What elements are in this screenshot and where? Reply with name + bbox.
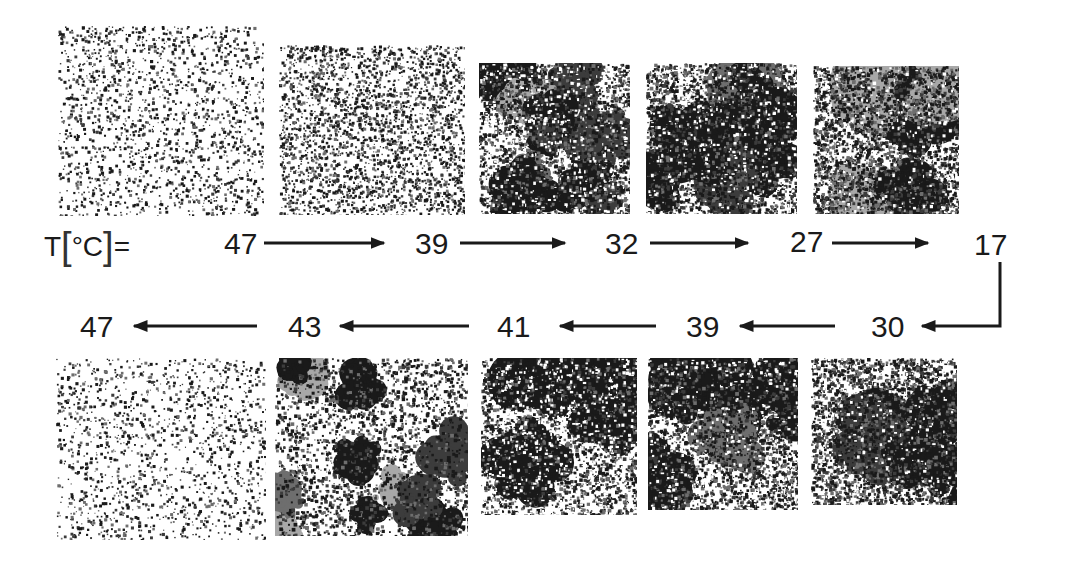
arrow-turn-17-to-30: [922, 262, 1000, 326]
arrows-layer: [0, 0, 1068, 572]
